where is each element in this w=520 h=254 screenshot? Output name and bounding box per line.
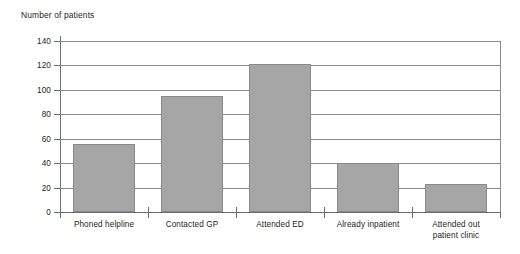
plot-area: [60, 41, 500, 212]
category-label-line: Contacted GP: [148, 219, 236, 230]
y-tick-label-0: 0: [46, 208, 51, 217]
category-label-line: patient clinic: [412, 230, 500, 241]
category-label-line: Already inpatient: [324, 219, 412, 230]
bar: [161, 96, 223, 212]
y-tick-label-20: 20: [42, 183, 51, 192]
y-axis-tick-labels: 020406080100120140: [18, 0, 51, 254]
category-axis: Phoned helplineContacted GPAttended EDAl…: [60, 212, 501, 254]
category-tick-3: [324, 207, 325, 218]
bar-chart-figure: Number of patients 020406080100120140 Ph…: [0, 0, 520, 254]
category-label: Phoned helpline: [60, 219, 148, 230]
category-tick-2: [236, 207, 237, 218]
y-tick-label-120: 120: [37, 61, 51, 70]
category-tick-0: [60, 212, 61, 218]
category-label: Contacted GP: [148, 219, 236, 230]
gridline-140: [60, 41, 500, 42]
bar: [337, 163, 399, 212]
y-tick-label-60: 60: [42, 134, 51, 143]
category-tick-1: [148, 207, 149, 218]
bar: [425, 184, 487, 212]
category-label: Attended outpatient clinic: [412, 219, 500, 241]
category-axis-baseline: [60, 212, 501, 213]
category-tick-5: [500, 212, 501, 218]
y-tick-label-100: 100: [37, 85, 51, 94]
y-tick-label-40: 40: [42, 159, 51, 168]
bar: [249, 64, 311, 212]
category-label-line: Attended out: [412, 219, 500, 230]
category-label-line: Phoned helpline: [60, 219, 148, 230]
bar: [73, 144, 135, 212]
category-label: Already inpatient: [324, 219, 412, 230]
category-label-line: Attended ED: [236, 219, 324, 230]
category-tick-4: [412, 207, 413, 218]
plot-right-border: [500, 41, 501, 212]
category-label: Attended ED: [236, 219, 324, 230]
y-tick-label-80: 80: [42, 110, 51, 119]
y-tick-label-140: 140: [37, 37, 51, 46]
